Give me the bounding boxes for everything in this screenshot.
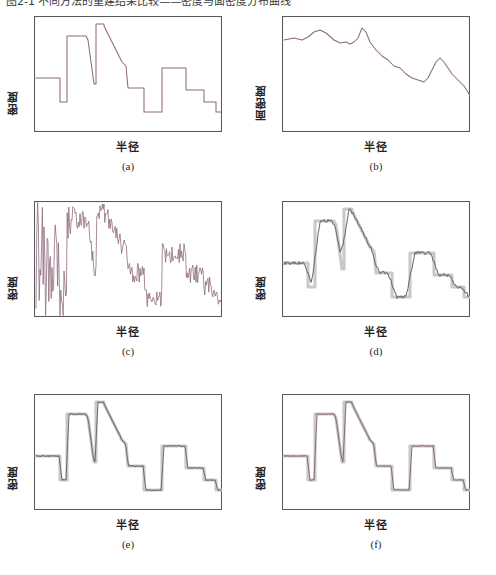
panel-c-frame — [35, 202, 222, 317]
panel-a-frame — [35, 17, 222, 132]
panel-c-xlabel: 半径 — [34, 323, 222, 339]
panel-a-ylabel: 密度 — [6, 91, 22, 115]
panel-e-tag: (e) — [34, 538, 222, 550]
panel-d-tag: (d) — [282, 345, 470, 357]
panel-c-ylabel-wrap: 密度 — [4, 195, 24, 380]
panel-a-ylabel-wrap: 密度 — [4, 10, 24, 195]
panel-f-tag: (f) — [282, 538, 470, 550]
panel-grid: 密度 半径 (a) 面密度 半径 (b) — [0, 10, 496, 575]
figure-page: 图2-1 不同方法的重建结果比较——密度与面密度分布曲线 密度 半径 (a) 面… — [0, 0, 496, 575]
panel-d-ylabel: 密度 — [254, 276, 270, 300]
panel-a: 密度 半径 (a) — [0, 10, 248, 195]
panel-a-plot — [34, 16, 222, 132]
panel-b-tag: (b) — [282, 160, 470, 172]
panel-a-xlabel: 半径 — [34, 138, 222, 154]
panel-f-plot — [282, 394, 470, 510]
panel-a-tag: (a) — [34, 160, 222, 172]
panel-f-ylabel: 密度 — [254, 466, 270, 490]
panel-b-ylabel: 面密度 — [254, 85, 270, 121]
panel-e-xlabel: 半径 — [34, 516, 222, 532]
panel-e: 密度 半径 (e) — [0, 380, 248, 575]
panel-d-xlabel: 半径 — [282, 323, 470, 339]
panel-e-ylabel: 密度 — [6, 466, 22, 490]
panel-e-plot — [34, 394, 222, 510]
panel-f-ylabel-wrap: 密度 — [252, 380, 272, 575]
panel-b: 面密度 半径 (b) — [248, 10, 496, 195]
panel-c-ylabel: 密度 — [6, 276, 22, 300]
panel-c-tag: (c) — [34, 345, 222, 357]
panel-f-xlabel: 半径 — [282, 516, 470, 532]
panel-f: 密度 半径 (f) — [248, 380, 496, 575]
panel-b-frame — [283, 17, 470, 132]
panel-d: 密度 半径 (d) — [248, 195, 496, 380]
panel-d-plot — [282, 201, 470, 317]
top-caption: 图2-1 不同方法的重建结果比较——密度与面密度分布曲线 — [6, 0, 492, 8]
panel-b-ylabel-wrap: 面密度 — [252, 10, 272, 195]
panel-e-ylabel-wrap: 密度 — [4, 380, 24, 575]
panel-c: 密度 半径 (c) — [0, 195, 248, 380]
panel-d-ylabel-wrap: 密度 — [252, 195, 272, 380]
panel-b-plot — [282, 16, 470, 132]
panel-c-plot — [34, 201, 222, 317]
panel-b-xlabel: 半径 — [282, 138, 470, 154]
